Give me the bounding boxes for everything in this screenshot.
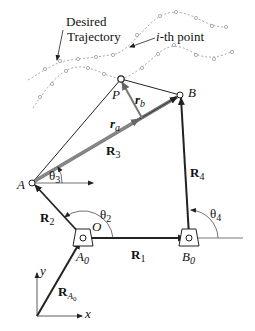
label-theta4: θ4 xyxy=(210,206,221,223)
joint-b xyxy=(177,92,183,98)
coupler-side-ap xyxy=(32,79,121,183)
ith-point-pointer xyxy=(130,38,155,47)
label-r4: R4 xyxy=(190,165,204,182)
ith-point-label: i-th point xyxy=(156,29,204,44)
joint-a0 xyxy=(80,235,86,241)
label-y-axis: y xyxy=(38,263,46,278)
label-ra0: RA0 xyxy=(58,284,77,303)
four-bar-linkage-diagram: Desired Trajectory i-th point P B A O A0… xyxy=(0,0,255,331)
label-ra: ra xyxy=(110,116,120,133)
label-b: B xyxy=(188,85,196,100)
label-r2: R2 xyxy=(40,210,54,227)
label-p: P xyxy=(111,87,120,102)
vector-ra0 xyxy=(37,242,80,316)
label-x-axis: x xyxy=(84,306,91,321)
label-b0: B0 xyxy=(182,249,195,266)
label-theta2: θ2 xyxy=(100,207,111,224)
desired-label-2: Trajectory xyxy=(67,29,121,44)
desired-trajectory-curve xyxy=(28,10,228,80)
coupler-side-pb xyxy=(121,79,180,95)
desired-label-1: Desired xyxy=(66,14,107,29)
label-rb: rb xyxy=(135,92,145,109)
desired-trajectory-pointer xyxy=(57,30,63,60)
label-r3: R3 xyxy=(106,143,120,160)
label-a0: A0 xyxy=(75,249,89,266)
label-a: A xyxy=(16,177,25,192)
vector-r4 xyxy=(181,98,189,236)
coupler-path-curve xyxy=(33,43,235,108)
joint-a xyxy=(29,180,35,186)
coupler-point-p xyxy=(118,76,124,82)
joint-b0 xyxy=(186,235,192,241)
label-theta3: θ3 xyxy=(49,168,60,185)
label-r1: R1 xyxy=(131,247,145,264)
